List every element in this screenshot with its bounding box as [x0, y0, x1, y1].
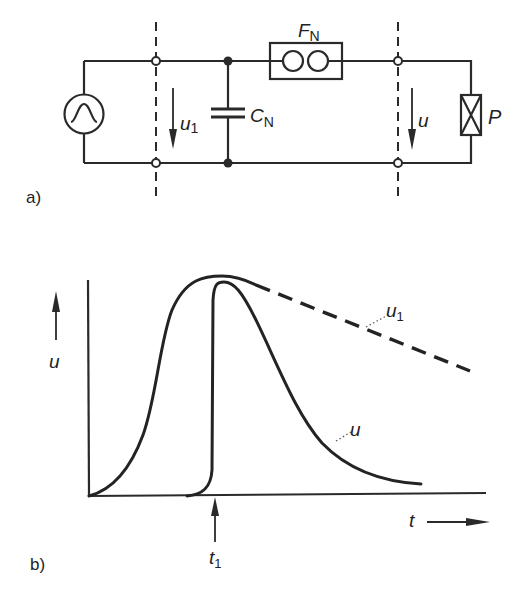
input-voltage-label: u1: [180, 113, 199, 136]
x-axis-label: t: [409, 510, 415, 531]
protected-device-icon: [461, 95, 481, 135]
fuse-label: FN: [298, 20, 320, 44]
terminal-icons: [152, 57, 402, 167]
u1-curve-dashed: [256, 285, 470, 371]
u-curve-label: u: [350, 419, 361, 440]
arrow-right-icon: [427, 518, 490, 526]
arrow-down-icon: [408, 88, 416, 150]
caption-fragment: [40, 578, 510, 596]
fuse-icon: [270, 43, 342, 79]
arrow-down-icon: [169, 88, 177, 149]
arrow-up-icon: [52, 291, 60, 340]
panel-b-tag: b): [30, 555, 45, 574]
y-axis-label: u: [49, 351, 60, 372]
capacitor-icon: [211, 57, 245, 168]
u1-curve-label: u1: [386, 300, 404, 324]
circuit-diagram: CN FN P u1 u a): [26, 20, 502, 207]
output-voltage-label: u: [418, 110, 429, 131]
u-leader: [336, 432, 351, 441]
capacitor-label: CN: [250, 105, 274, 130]
x-axis: [89, 493, 486, 496]
y-axis: [88, 280, 89, 496]
t1-marker-label: t1: [209, 547, 222, 571]
u1-curve-solid: [89, 276, 256, 496]
waveform-chart: u t t1 u1 u b): [30, 276, 490, 574]
ac-source-icon: [65, 95, 104, 134]
figure-canvas: CN FN P u1 u a): [0, 0, 530, 596]
arrow-up-icon: [211, 497, 219, 542]
panel-a-tag: a): [26, 188, 41, 207]
load-label: P: [488, 106, 502, 128]
